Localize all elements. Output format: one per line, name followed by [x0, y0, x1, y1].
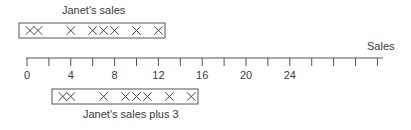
x-mark [34, 26, 42, 34]
tick-label: 8 [112, 69, 118, 81]
x-mark [26, 26, 34, 34]
x-mark [110, 26, 118, 34]
x-mark [89, 26, 97, 34]
dot-plot [0, 0, 411, 130]
x-mark [99, 92, 107, 100]
x-mark [165, 92, 173, 100]
tick-label: 16 [196, 69, 208, 81]
x-mark [67, 92, 75, 100]
tick-label: 4 [68, 69, 74, 81]
tick-label: 0 [24, 69, 30, 81]
top-series-title: Janet's sales [62, 4, 125, 16]
x-mark [121, 92, 129, 100]
x-mark [154, 26, 162, 34]
x-mark [67, 26, 75, 34]
x-mark [59, 92, 67, 100]
tick-label: 12 [152, 69, 164, 81]
tick-label: 24 [284, 69, 296, 81]
x-mark [187, 92, 195, 100]
x-mark [143, 92, 151, 100]
x-mark [99, 26, 107, 34]
axis-title: Sales [367, 40, 395, 52]
bottom-series-title: Janet's sales plus 3 [83, 108, 179, 120]
x-mark [132, 92, 140, 100]
tick-label: 20 [240, 69, 252, 81]
x-mark [132, 26, 140, 34]
